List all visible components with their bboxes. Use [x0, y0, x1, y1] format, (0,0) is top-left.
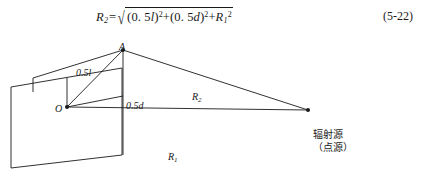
diagram-canvas [0, 40, 426, 176]
distance-r1-line [67, 107, 308, 110]
term1-coefficient: 0. 5 [131, 10, 150, 24]
equation-lhs-variable: R [96, 10, 104, 24]
label-distance-r2: R2 [192, 92, 202, 104]
distance-r2-line [123, 50, 308, 110]
term3-exponent: 2 [228, 10, 232, 19]
radiation-source-name: 辐射源 [313, 129, 353, 142]
square-root-group: √(0. 5l)2+(0. 5d)2+R12 [117, 7, 233, 27]
equation-formula: R2=√(0. 5l)2+(0. 5d)2+R12 [96, 7, 233, 27]
radicand: (0. 5l)2+(0. 5d)2+R12 [125, 7, 233, 25]
r1-subscript: 1 [174, 156, 178, 164]
equation-number: (5-22) [383, 9, 413, 24]
label-point-o: O [55, 104, 62, 114]
radical-icon: √ [118, 8, 125, 28]
first-plus-sign: + [163, 10, 170, 24]
term2-coefficient: 0. 5 [174, 10, 193, 24]
radiation-source-marker [306, 108, 310, 112]
second-plus-sign: + [208, 10, 215, 24]
half-d-variable: d [139, 100, 144, 111]
equation-row: R2=√(0. 5l)2+(0. 5d)2+R12 (5-22) [0, 0, 426, 40]
label-half-l: 0.5l [76, 68, 91, 78]
half-l-value: 0.5 [76, 67, 89, 78]
point-o-marker [65, 105, 69, 109]
half-l-variable: l [89, 67, 92, 78]
equation-equals-sign: = [108, 10, 117, 24]
r2-subscript: 2 [198, 96, 202, 104]
segment-o-to-half-d-foot [67, 96, 123, 107]
label-half-d: 0.5d [126, 101, 144, 111]
label-radiation-source: 辐射源 （点源） [313, 129, 353, 154]
label-distance-r1: R1 [168, 152, 178, 164]
half-d-value: 0.5 [126, 100, 139, 111]
receiving-plane-parallelogram [11, 68, 122, 168]
radiation-source-qualifier: （点源） [313, 142, 353, 155]
geometry-diagram: A O 0.5l 0.5d R2 R1 辐射源 （点源） [0, 40, 426, 176]
label-point-a: A [119, 42, 125, 52]
